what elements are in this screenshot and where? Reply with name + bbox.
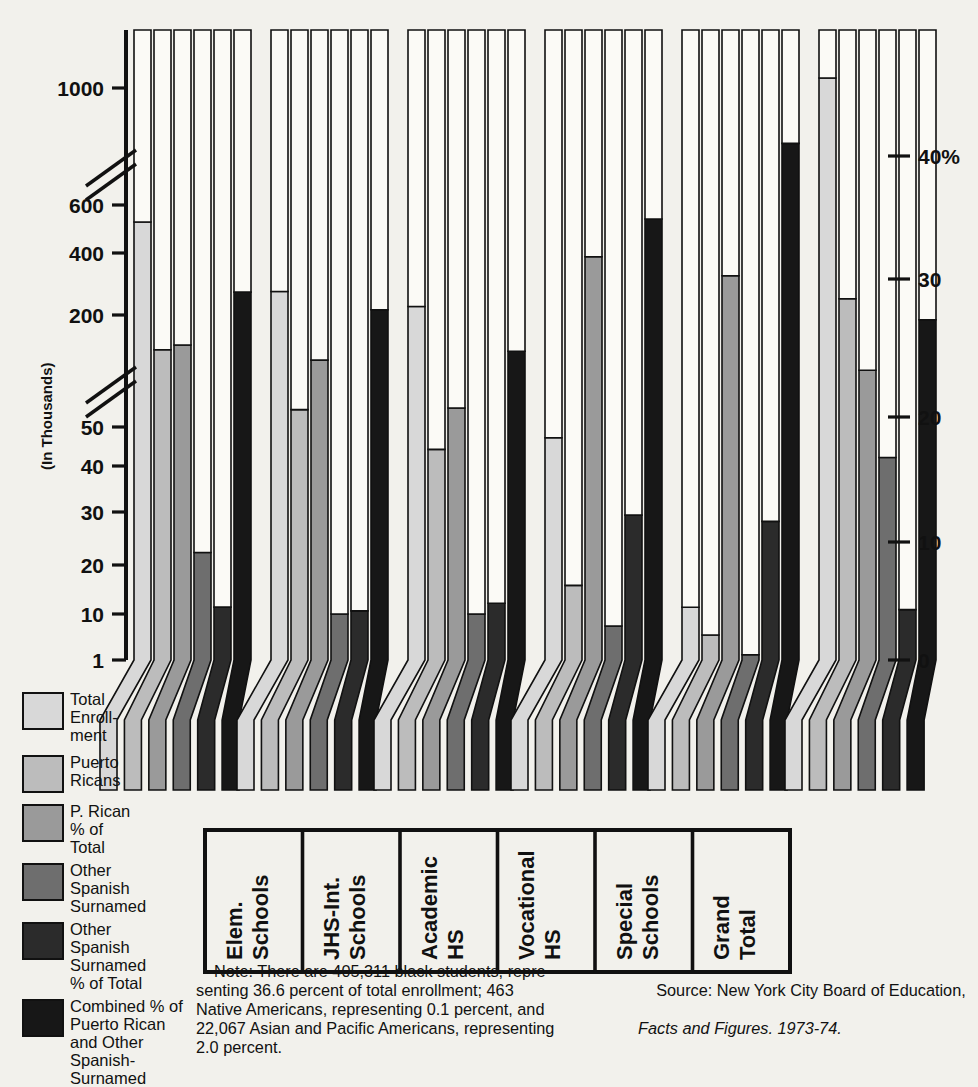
legend-label-p-rican-pct-of-total: P. Rican % of Total bbox=[70, 802, 220, 856]
bar-empty-2-1 bbox=[428, 30, 445, 449]
bar-empty-5-4 bbox=[899, 30, 916, 610]
bar-empty-1-2 bbox=[311, 30, 328, 360]
category-label-5-line1: Grand bbox=[709, 895, 734, 960]
right-tick-label-30: 30 bbox=[918, 268, 941, 291]
legend-swatch-other-spanish-surnamed bbox=[22, 863, 64, 901]
category-label-3-line2: HS bbox=[540, 929, 565, 960]
legend-label-other-spanish-surnamed: Other Spanish Surnamed bbox=[70, 861, 220, 915]
bar-empty-1-4 bbox=[351, 30, 368, 611]
bar-empty-0-1 bbox=[154, 30, 171, 350]
category-label-4-line1: Special bbox=[612, 883, 637, 960]
bar-empty-4-2 bbox=[722, 30, 739, 276]
legend-swatch-combined-pct bbox=[22, 999, 64, 1037]
note-text: Note: There are 405,311 black students, … bbox=[196, 962, 596, 1057]
bar-empty-2-5 bbox=[508, 30, 525, 351]
left-tick-label-40: 40 bbox=[81, 455, 104, 478]
category-label-1-line1: JHS-Int. bbox=[319, 877, 344, 960]
left-tick-label-1000: 1000 bbox=[57, 77, 104, 100]
bar-empty-0-3 bbox=[194, 30, 211, 553]
bar-empty-2-3 bbox=[468, 30, 485, 614]
left-tick-label-600: 600 bbox=[69, 194, 104, 217]
category-label-0-line2: Schools bbox=[248, 874, 273, 960]
bar-empty-0-4 bbox=[214, 30, 231, 607]
category-label-1-line2: Schools bbox=[345, 874, 370, 960]
bar-empty-4-5 bbox=[782, 30, 799, 143]
bar-empty-4-1 bbox=[702, 30, 719, 635]
bar-empty-3-5 bbox=[645, 30, 662, 219]
bar-empty-0-0 bbox=[134, 30, 151, 222]
legend-swatch-total-enrollment bbox=[22, 692, 64, 730]
bar-empty-1-0 bbox=[271, 30, 288, 292]
legend-swatch-p-rican-pct-of-total bbox=[22, 804, 64, 842]
bar-empty-5-2 bbox=[859, 30, 876, 370]
bar-empty-0-2 bbox=[174, 30, 191, 345]
bar-empty-2-2 bbox=[448, 30, 465, 408]
left-tick-label-50: 50 bbox=[81, 416, 104, 439]
category-label-3-line1: Vocational bbox=[514, 850, 539, 960]
bar-empty-5-0 bbox=[819, 30, 836, 78]
legend-swatch-puerto-ricans bbox=[22, 755, 64, 793]
bar-empty-0-5 bbox=[234, 30, 251, 292]
bar-empty-4-4 bbox=[762, 30, 779, 521]
left-tick-label-30: 30 bbox=[81, 501, 104, 524]
left-tick-label-200: 200 bbox=[69, 304, 104, 327]
bar-empty-5-1 bbox=[839, 30, 856, 299]
legend-label-puerto-ricans: Puerto Ricans bbox=[70, 753, 220, 789]
right-tick-label-20: 20 bbox=[918, 406, 941, 429]
category-label-2-line2: HS bbox=[443, 929, 468, 960]
right-tick-label-40%: 40% bbox=[918, 145, 960, 168]
bar-empty-1-1 bbox=[291, 30, 308, 410]
right-tick-label-0: 0 bbox=[918, 649, 930, 672]
left-tick-label-1: 1 bbox=[92, 649, 104, 672]
category-label-2-line1: Academic bbox=[417, 856, 442, 960]
right-tick-label-10: 10 bbox=[918, 531, 941, 554]
category-label-4-line2: Schools bbox=[638, 874, 663, 960]
legend-swatch-other-spanish-surnamed-pct bbox=[22, 922, 64, 960]
legend-label-total-enrollment: Total Enroll- ment bbox=[70, 690, 220, 744]
bar-empty-4-3 bbox=[742, 30, 759, 655]
bar-empty-3-4 bbox=[625, 30, 642, 515]
bar-empty-3-3 bbox=[605, 30, 622, 626]
bar-empty-4-0 bbox=[682, 30, 699, 607]
bar-empty-3-0 bbox=[545, 30, 562, 438]
source-line-1: Source: New York City Board of Education… bbox=[638, 981, 966, 999]
bar-empty-2-4 bbox=[488, 30, 505, 603]
bar-empty-1-3 bbox=[331, 30, 348, 614]
source-line-2: Facts and Figures. 1973-74. bbox=[638, 1019, 842, 1037]
source-text: Source: New York City Board of Education… bbox=[620, 962, 970, 1057]
bar-empty-3-1 bbox=[565, 30, 582, 585]
bar-empty-1-5 bbox=[371, 30, 388, 310]
bar-empty-5-3 bbox=[879, 30, 896, 457]
category-label-0-line1: Elem. bbox=[222, 901, 247, 960]
left-tick-label-20: 20 bbox=[81, 554, 104, 577]
bar-empty-2-0 bbox=[408, 30, 425, 306]
y-axis-title: (In Thousands) bbox=[38, 363, 55, 471]
left-tick-label-400: 400 bbox=[69, 242, 104, 265]
left-tick-label-10: 10 bbox=[81, 603, 104, 626]
category-label-5-line2: Total bbox=[735, 909, 760, 960]
bar-empty-3-2 bbox=[585, 30, 602, 257]
